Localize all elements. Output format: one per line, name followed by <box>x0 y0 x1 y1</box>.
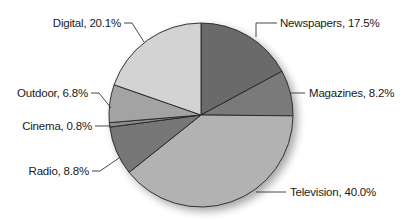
label-newspapers: Newspapers, 17.5% <box>280 16 380 30</box>
leader-line-radio <box>92 158 119 171</box>
label-cinema: Cinema, 0.8% <box>22 119 92 133</box>
pie-slices <box>109 23 293 207</box>
leader-line-digital <box>124 23 144 42</box>
leader-line-outdoor <box>91 93 111 108</box>
label-television: Television, 40.0% <box>290 185 376 199</box>
leader-line-newspapers <box>256 23 277 37</box>
label-outdoor: Outdoor, 6.8% <box>17 86 88 100</box>
label-digital: Digital, 20.1% <box>53 16 121 30</box>
label-radio: Radio, 8.8% <box>29 164 89 178</box>
label-magazines: Magazines, 8.2% <box>309 86 394 100</box>
